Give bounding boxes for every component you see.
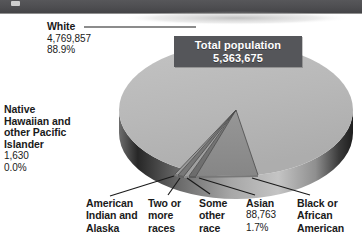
total-population-callout: Total population 5,363,675 (174, 36, 302, 67)
header-shadow (120, 11, 352, 25)
leader-line-american-indian (110, 176, 174, 196)
label-asian-count: 88,763 (246, 209, 276, 221)
label-native-hawaiian-pacific-islander: Native Hawaiian and other Pacific Island… (4, 104, 71, 174)
label-black-line1: Black or (297, 197, 344, 209)
label-asian-percent: 1.7% (246, 222, 276, 234)
label-black-line2: African (297, 209, 344, 221)
label-two-or-more-races: Two or more races (148, 197, 181, 234)
label-nhpi-percent: 0.0% (4, 162, 71, 174)
label-some-line2: other (199, 209, 227, 221)
label-some-other-race: Some other race (199, 197, 227, 234)
label-nhpi-count: 1,630 (4, 150, 71, 162)
pie-chart-figure: Total population 5,363,675 White 4,769,8… (0, 0, 362, 236)
label-two-line1: Two or (148, 197, 181, 209)
label-nhpi-line1: Native (4, 104, 71, 116)
label-white-count: 4,769,857 (47, 33, 91, 45)
label-asian: Asian 88,763 1.7% (246, 197, 276, 234)
label-white-name: White (47, 21, 91, 33)
label-nhpi-line4: Islander (4, 139, 71, 151)
label-asian-name: Asian (246, 197, 276, 209)
total-population-value: 5,363,675 (213, 52, 263, 65)
label-two-line3: races (148, 222, 181, 234)
label-some-line1: Some (199, 197, 227, 209)
label-aian-line1: American (86, 197, 138, 209)
label-aian-line2: Indian and (86, 209, 138, 221)
label-white: White 4,769,857 88.9% (47, 21, 91, 56)
label-aian-line3: Alaska (86, 222, 138, 234)
total-population-label: Total population (195, 39, 281, 52)
label-american-indian-alaska: American Indian and Alaska (86, 197, 138, 234)
label-some-line3: race (199, 222, 227, 234)
label-white-percent: 88.9% (47, 44, 91, 56)
label-black-african-american: Black or African American (297, 197, 344, 234)
label-two-line2: more (148, 209, 181, 221)
label-black-line3: American (297, 222, 344, 234)
